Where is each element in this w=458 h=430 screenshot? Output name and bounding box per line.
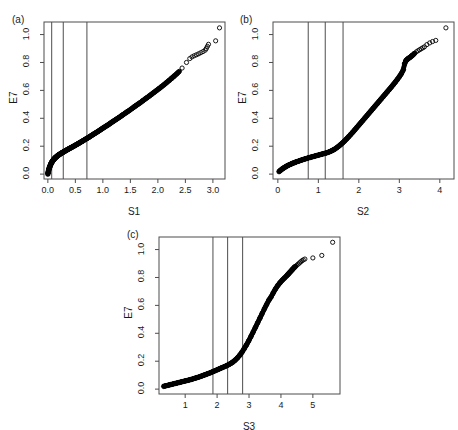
data-point	[279, 278, 284, 283]
data-point	[283, 164, 288, 169]
data-point	[149, 92, 154, 97]
data-point	[174, 72, 179, 77]
data-point	[57, 152, 62, 157]
data-point	[52, 157, 57, 162]
data-point	[74, 142, 79, 147]
data-point	[126, 109, 131, 114]
data-point	[188, 377, 193, 382]
data-point	[176, 380, 181, 385]
data-point	[101, 126, 106, 131]
data-point	[86, 135, 91, 140]
data-point	[66, 147, 71, 152]
data-point	[165, 383, 170, 388]
data-point	[140, 99, 145, 104]
data-point	[329, 148, 334, 153]
data-point	[222, 364, 227, 369]
data-point	[73, 143, 78, 148]
data-point	[406, 56, 411, 61]
data-point	[66, 147, 71, 152]
data-point	[50, 158, 55, 163]
data-point	[268, 296, 273, 301]
data-point	[135, 102, 140, 107]
data-point	[399, 72, 404, 77]
data-point	[62, 149, 67, 154]
data-point	[78, 140, 83, 145]
data-point	[279, 279, 284, 284]
data-point	[262, 307, 267, 312]
data-point	[399, 71, 404, 76]
data-point	[67, 146, 72, 151]
data-point	[251, 330, 256, 335]
data-point	[63, 148, 68, 153]
data-point	[329, 148, 334, 153]
data-point	[93, 131, 98, 136]
data-point	[49, 161, 54, 166]
data-point	[278, 280, 283, 285]
plot-frame	[44, 22, 225, 179]
data-point	[67, 146, 72, 151]
data-point	[294, 159, 299, 164]
data-point	[48, 163, 53, 168]
data-point	[68, 146, 73, 151]
data-point	[65, 147, 70, 152]
data-point	[417, 48, 421, 52]
data-point	[47, 166, 52, 171]
data-point	[284, 164, 289, 169]
data-point	[89, 133, 94, 138]
data-point	[125, 109, 130, 114]
data-point	[359, 120, 364, 125]
data-point	[74, 142, 79, 147]
data-point	[301, 157, 306, 162]
data-point	[202, 373, 207, 378]
data-point	[218, 366, 223, 371]
data-point	[152, 90, 157, 95]
data-point	[317, 152, 322, 157]
data-point	[253, 324, 258, 329]
data-point	[241, 347, 246, 352]
data-point	[126, 108, 131, 113]
data-point	[342, 139, 347, 144]
data-point	[47, 166, 52, 171]
data-point	[206, 371, 211, 376]
data-point	[287, 270, 292, 275]
data-point	[286, 163, 291, 168]
data-point	[292, 160, 297, 165]
data-point	[409, 54, 414, 59]
data-point	[342, 139, 347, 144]
data-point	[238, 351, 243, 356]
data-point	[375, 101, 380, 106]
data-point	[72, 143, 77, 148]
data-point	[169, 76, 174, 81]
y-tick-label: 0.8	[250, 49, 260, 73]
data-point	[50, 159, 55, 164]
data-point	[60, 150, 65, 155]
data-point	[333, 146, 338, 151]
data-point	[306, 155, 311, 160]
data-point	[179, 380, 184, 385]
data-point	[405, 57, 410, 62]
data-point	[283, 275, 288, 280]
data-point	[394, 79, 399, 84]
data-point	[165, 383, 170, 388]
data-point	[201, 373, 206, 378]
data-point	[94, 130, 99, 135]
data-point	[163, 384, 168, 389]
data-point	[359, 120, 364, 125]
data-point	[337, 143, 342, 148]
data-point	[321, 151, 326, 156]
data-point	[173, 381, 178, 386]
data-point	[83, 137, 88, 142]
data-point	[164, 383, 169, 388]
data-point	[266, 299, 271, 304]
data-point	[354, 126, 359, 131]
data-point	[159, 84, 164, 89]
data-point	[272, 289, 277, 294]
data-point	[262, 307, 267, 312]
data-point	[150, 91, 155, 96]
data-point	[291, 266, 296, 271]
data-point	[49, 161, 54, 166]
data-point	[54, 155, 59, 160]
data-point	[59, 151, 64, 156]
data-point	[61, 149, 66, 154]
data-point	[254, 324, 259, 329]
